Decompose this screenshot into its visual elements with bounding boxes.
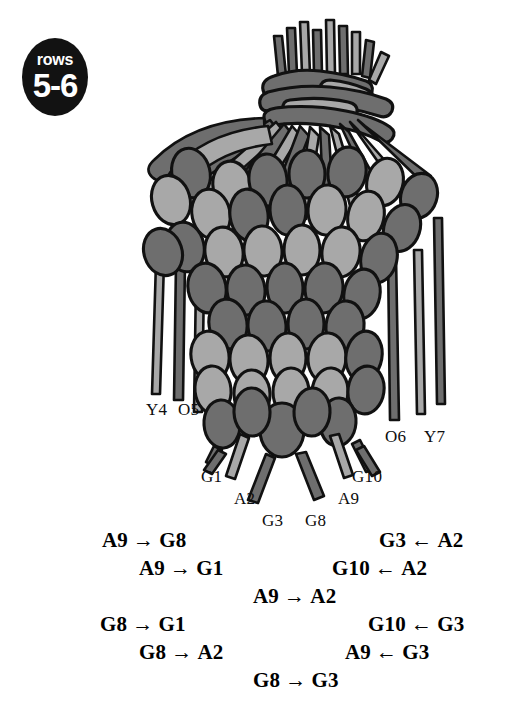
instruction-source: G8 — [139, 640, 166, 664]
label-g10: G10 — [352, 467, 382, 487]
arrow-right-icon: → — [279, 584, 310, 608]
label-a9: A9 — [338, 489, 359, 509]
instruction-target: G1 — [158, 612, 185, 636]
instruction-target: G3 — [379, 528, 406, 552]
instruction-target: A9 — [345, 640, 371, 664]
arrow-right-icon: → — [280, 668, 311, 692]
instruction-row: G8→A2 A9←G3 — [0, 640, 507, 668]
instruction-target: G10 — [368, 612, 406, 636]
label-o6: O6 — [385, 427, 406, 447]
instruction-source: A2 — [437, 528, 463, 552]
instruction-target: G8 — [159, 528, 186, 552]
instruction-row: A9→G8 G3←A2 — [0, 528, 507, 556]
label-g1: G1 — [201, 467, 222, 487]
instruction-step: A9→G8 — [102, 528, 187, 553]
label-a2: A2 — [234, 489, 255, 509]
arrow-left-icon: ← — [406, 612, 437, 636]
instruction-step: A9→A2 — [253, 584, 336, 609]
instruction-source: G3 — [437, 612, 464, 636]
instruction-source: A2 — [401, 556, 427, 580]
instruction-source: A9 — [102, 528, 128, 552]
instruction-target: A2 — [310, 584, 336, 608]
arrow-right-icon: → — [165, 556, 196, 580]
instruction-row: G8→G1 G10←G3 — [0, 612, 507, 640]
instruction-source: G8 — [100, 612, 127, 636]
instruction-step: A9←G3 — [345, 640, 430, 665]
label-o5: O5 — [178, 400, 199, 420]
arrow-left-icon: ← — [371, 640, 402, 664]
instruction-target: G1 — [196, 556, 223, 580]
instruction-row: A9→G1 G10←A2 — [0, 556, 507, 584]
diagram-page: rows 5-6 .sd{fill:#6e6e6e;stroke:#111111… — [0, 0, 507, 713]
instruction-row: G8→G3 — [0, 668, 507, 696]
instruction-row: A9→A2 — [0, 584, 507, 612]
instruction-step: G3←A2 — [379, 528, 464, 553]
arrow-right-icon: → — [127, 612, 158, 636]
knot-instruction-list: A9→G8 G3←A2 A9→G1 G10←A2 A9→A2 G8→G1 — [0, 528, 507, 696]
arrow-left-icon: ← — [406, 528, 437, 552]
instruction-step: G8→G1 — [100, 612, 186, 637]
instruction-source: G8 — [253, 668, 280, 692]
arrow-right-icon: → — [128, 528, 159, 552]
instruction-step: A9→G1 — [139, 556, 224, 581]
instruction-target: G10 — [332, 556, 370, 580]
label-y7: Y7 — [424, 427, 445, 447]
instruction-source: A9 — [253, 584, 279, 608]
instruction-target: A2 — [197, 640, 223, 664]
instruction-step: G10←A2 — [332, 556, 427, 581]
label-y4: Y4 — [146, 400, 167, 420]
arrow-left-icon: ← — [370, 556, 401, 580]
instruction-step: G10←G3 — [368, 612, 464, 637]
instruction-source: A9 — [139, 556, 165, 580]
instruction-target: G3 — [311, 668, 338, 692]
instruction-source: G3 — [402, 640, 429, 664]
arrow-right-icon: → — [166, 640, 197, 664]
instruction-step: G8→A2 — [139, 640, 224, 665]
instruction-step: G8→G3 — [253, 668, 339, 693]
